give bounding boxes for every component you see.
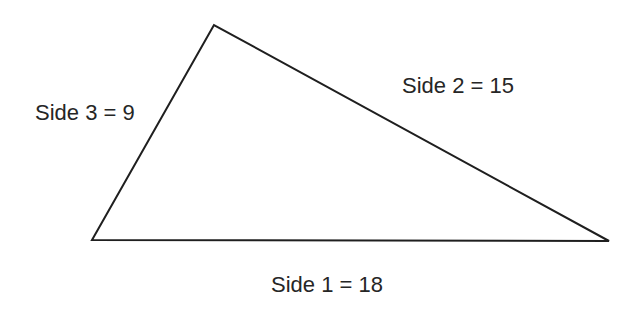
side-3-label: Side 3 = 9 (35, 102, 135, 124)
triangle-figure (0, 0, 638, 313)
side-1-label: Side 1 = 18 (271, 274, 383, 296)
triangle-shape (92, 25, 609, 241)
side-2-label: Side 2 = 15 (402, 75, 514, 97)
